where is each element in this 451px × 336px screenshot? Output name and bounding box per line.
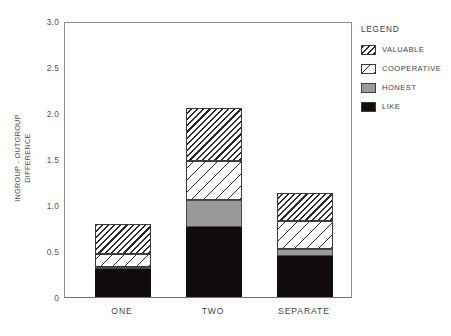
bar-group — [65, 23, 351, 297]
legend-item-valuable: VALUABLE — [361, 41, 449, 58]
x-tick-separate: SEPARATE — [249, 306, 359, 316]
y-tick-1-5: 1.5 — [33, 155, 59, 165]
stacked-bar-chart: INGROUP - OUTGROUP DIFFERENCE 3.0 2.5 2.… — [0, 0, 451, 336]
y-tick-3-0: 3.0 — [33, 17, 59, 27]
legend-swatch-like-icon — [361, 102, 376, 112]
y-tick-2-0: 2.0 — [33, 109, 59, 119]
legend-label-cooperative: COOPERATIVE — [382, 64, 441, 73]
segment-two-like — [186, 227, 242, 297]
legend-swatch-honest-icon — [361, 83, 376, 93]
segment-separate-valuable — [277, 193, 333, 221]
segment-one-valuable — [95, 224, 151, 253]
y-tick-1-0: 1.0 — [33, 201, 59, 211]
legend-item-like: LIKE — [361, 98, 449, 115]
segment-one-like — [95, 269, 151, 297]
y-tick-2-5: 2.5 — [33, 63, 59, 73]
legend-item-honest: HONEST — [361, 79, 449, 96]
segment-one-honest — [95, 267, 151, 270]
segment-separate-honest — [277, 249, 333, 255]
legend-item-cooperative: COOPERATIVE — [361, 60, 449, 77]
segment-two-cooperative — [186, 161, 242, 201]
legend-label-valuable: VALUABLE — [382, 45, 424, 54]
y-tick-0-5: 0.5 — [33, 247, 59, 257]
legend-label-like: LIKE — [382, 102, 400, 111]
legend-swatch-valuable-icon — [361, 45, 376, 55]
y-axis-title-line2: DIFFERENCE — [23, 83, 33, 233]
y-tick-0: 0 — [33, 293, 59, 303]
plot-area — [64, 22, 352, 298]
segment-separate-like — [277, 256, 333, 297]
y-axis-title-line1: INGROUP - OUTGROUP — [13, 83, 23, 233]
segment-separate-cooperative — [277, 221, 333, 250]
y-axis-ticks: 3.0 2.5 2.0 1.5 1.0 0.5 0 — [33, 0, 59, 336]
legend-swatch-cooperative-icon — [361, 64, 376, 74]
segment-two-honest — [186, 200, 242, 227]
legend-title: LEGEND — [361, 24, 449, 34]
legend-label-honest: HONEST — [382, 83, 416, 92]
legend: LEGEND VALUABLE COOPERATIVE HONEST LIKE — [361, 24, 449, 117]
segment-two-valuable — [186, 108, 242, 160]
segment-one-cooperative — [95, 254, 151, 267]
